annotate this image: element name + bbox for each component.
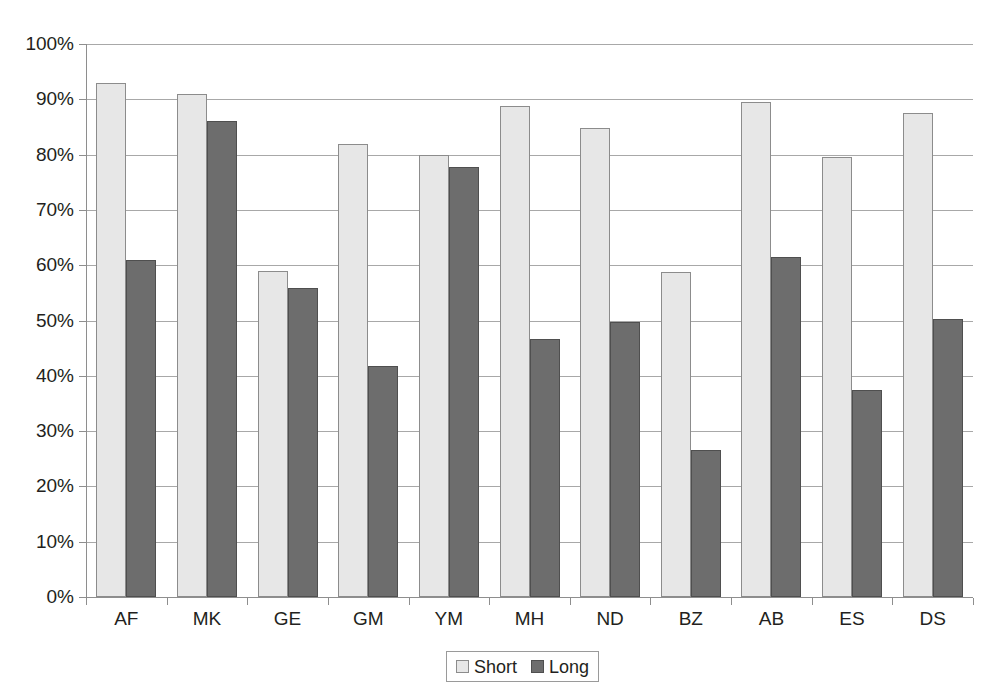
y-axis-tick-mark — [79, 210, 86, 211]
x-axis-tick-mark — [973, 598, 974, 605]
x-axis-tick-mark — [570, 598, 571, 605]
x-axis-tick-mark — [328, 598, 329, 605]
y-axis-tick-label: 20% — [2, 476, 74, 495]
bar-es-long — [852, 390, 882, 597]
bar-nd-short — [580, 128, 610, 597]
x-axis-tick-mark — [650, 598, 651, 605]
y-axis-tick-label: 60% — [2, 255, 74, 274]
bar-nd-long — [610, 322, 640, 597]
y-axis-tick-mark — [79, 486, 86, 487]
y-axis-tick-mark — [79, 99, 86, 100]
bar-ab-long — [771, 257, 801, 597]
chart-legend: ShortLong — [446, 651, 599, 682]
y-axis-tick-label: 0% — [2, 587, 74, 606]
bar-ge-long — [288, 288, 318, 597]
x-axis-tick-label-mh: MH — [489, 609, 570, 628]
gridline — [86, 99, 973, 100]
y-axis-tick-label: 10% — [2, 532, 74, 551]
bar-gm-long — [368, 366, 398, 597]
bar-bz-long — [691, 450, 721, 597]
x-axis-tick-mark — [247, 598, 248, 605]
y-axis-tick-label: 30% — [2, 421, 74, 440]
x-axis-tick-label-nd: ND — [570, 609, 651, 628]
x-axis-tick-mark — [489, 598, 490, 605]
bar-mh-short — [500, 106, 530, 597]
x-axis-tick-mark — [86, 598, 87, 605]
chart-page: 0%10%20%30%40%50%60%70%80%90%100% AFMKGE… — [0, 0, 998, 700]
x-axis-tick-mark — [731, 598, 732, 605]
bar-bz-short — [661, 272, 691, 597]
y-axis-tick-label: 90% — [2, 89, 74, 108]
x-axis-tick-label-gm: GM — [328, 609, 409, 628]
y-axis-tick-mark — [79, 431, 86, 432]
bar-ab-short — [741, 102, 771, 597]
bar-es-short — [822, 157, 852, 597]
bar-mk-short — [177, 94, 207, 597]
y-axis-tick-mark — [79, 44, 86, 45]
y-axis-tick-label: 70% — [2, 200, 74, 219]
plot-area — [86, 44, 973, 597]
y-axis-tick-label: 100% — [2, 34, 74, 53]
bar-mk-long — [207, 121, 237, 597]
dark-gray-swatch — [531, 660, 544, 673]
y-axis-line — [86, 44, 87, 598]
x-axis-tick-label-bz: BZ — [650, 609, 731, 628]
x-axis-tick-label-ge: GE — [247, 609, 328, 628]
bar-ym-long — [449, 167, 479, 597]
x-axis-line — [86, 597, 973, 598]
legend-label-long: Long — [549, 658, 589, 676]
y-axis-tick-label: 40% — [2, 366, 74, 385]
y-axis-tick-mark — [79, 376, 86, 377]
bar-mh-long — [530, 339, 560, 597]
y-axis-tick-mark — [79, 265, 86, 266]
x-axis-tick-label-mk: MK — [167, 609, 248, 628]
x-axis-tick-mark — [892, 598, 893, 605]
x-axis-tick-label-ab: AB — [731, 609, 812, 628]
light-gray-swatch — [456, 660, 469, 673]
legend-label-short: Short — [474, 658, 517, 676]
legend-item-short[interactable]: Short — [456, 658, 517, 676]
x-axis-tick-mark — [409, 598, 410, 605]
bar-ds-short — [903, 113, 933, 597]
bar-ds-long — [933, 319, 963, 597]
bar-af-long — [126, 260, 156, 597]
y-axis-tick-mark — [79, 155, 86, 156]
bar-gm-short — [338, 144, 368, 597]
y-axis-labels: 0%10%20%30%40%50%60%70%80%90%100% — [0, 0, 74, 700]
bar-ym-short — [419, 155, 449, 597]
x-axis-tick-label-ds: DS — [892, 609, 973, 628]
x-axis-tick-label-es: ES — [812, 609, 893, 628]
y-axis-tick-label: 50% — [2, 311, 74, 330]
bar-ge-short — [258, 271, 288, 597]
y-axis-tick-mark — [79, 597, 86, 598]
x-axis-tick-label-af: AF — [86, 609, 167, 628]
x-axis-tick-mark — [812, 598, 813, 605]
y-axis-tick-label: 80% — [2, 145, 74, 164]
bar-af-short — [96, 83, 126, 597]
legend-item-long[interactable]: Long — [531, 658, 589, 676]
x-axis-tick-label-ym: YM — [409, 609, 490, 628]
x-axis-tick-mark — [167, 598, 168, 605]
gridline — [86, 44, 973, 45]
y-axis-tick-mark — [79, 321, 86, 322]
y-axis-tick-mark — [79, 542, 86, 543]
